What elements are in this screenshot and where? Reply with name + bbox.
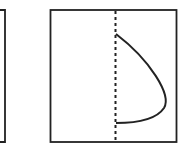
diagram-canvas [0,0,179,147]
left-panel [0,10,5,142]
right-panel [51,10,177,142]
profile-curve [116,34,166,123]
panel-frame [51,10,177,142]
